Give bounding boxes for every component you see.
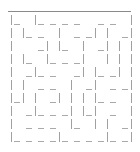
maze-wall-left: [107, 41, 108, 51]
maze-cell: [47, 65, 59, 78]
maze-cell: [83, 13, 95, 26]
maze-wall-bottom: [26, 76, 32, 77]
maze-wall-left: [35, 93, 36, 103]
maze-wall-bottom: [50, 76, 56, 77]
maze-cell: [71, 78, 83, 91]
maze-wall-bottom: [14, 102, 20, 103]
maze-cell: [35, 52, 47, 65]
maze-wall-left: [95, 80, 96, 90]
maze-wall-bottom: [110, 76, 116, 77]
maze-wall-left: [107, 28, 108, 38]
maze-wall-left: [83, 67, 84, 77]
maze-wall-bottom: [50, 24, 56, 25]
maze-wall-bottom: [74, 128, 80, 129]
maze-wall-bottom: [122, 128, 128, 129]
maze-wall-left: [11, 54, 12, 64]
maze-cell: [59, 39, 71, 52]
maze-cell: [35, 39, 47, 52]
maze-cell: [47, 91, 59, 104]
maze-wall-left: [11, 119, 12, 129]
maze-wall-bottom: [98, 24, 104, 25]
maze-cell: [95, 91, 107, 104]
maze-wall-bottom: [62, 50, 68, 51]
maze-cell: [35, 26, 47, 39]
maze-cell: [83, 39, 95, 52]
maze-cell: [35, 65, 47, 78]
maze-wall-bottom: [110, 102, 116, 103]
maze-wall-bottom: [110, 141, 116, 142]
maze-wall-left: [107, 132, 108, 142]
maze-cell: [71, 13, 83, 26]
maze-cell: [95, 13, 107, 26]
maze-cell: [35, 104, 47, 117]
maze-wall-bottom: [50, 141, 56, 142]
maze-cell: [95, 52, 107, 65]
maze-wall-left: [83, 106, 84, 116]
maze-cell: [47, 52, 59, 65]
maze-wall-bottom: [62, 141, 68, 142]
maze-wall-bottom: [122, 37, 128, 38]
maze-cell: [83, 52, 95, 65]
maze-wall-left: [35, 67, 36, 77]
maze-cell: [11, 78, 23, 91]
maze-cell: [47, 104, 59, 117]
maze-cell: [107, 52, 119, 65]
maze-grid: [11, 13, 131, 143]
maze-wall-bottom: [98, 76, 104, 77]
maze-wall-left: [95, 119, 96, 129]
maze-wall-left: [11, 15, 12, 25]
maze-cell: [83, 91, 95, 104]
maze-wall-left: [83, 41, 84, 51]
maze-cell: [11, 130, 23, 143]
maze-cell: [11, 13, 23, 26]
maze-cell: [59, 104, 71, 117]
maze-cell: [119, 52, 131, 65]
maze-cell: [47, 26, 59, 39]
maze-wall-bottom: [98, 102, 104, 103]
maze-top-wall: [8, 11, 131, 12]
maze-cell: [11, 117, 23, 130]
maze-wall-bottom: [14, 141, 20, 142]
maze-board: [11, 11, 131, 143]
maze-wall-bottom: [38, 76, 44, 77]
maze-cell: [23, 78, 35, 91]
maze-wall-bottom: [86, 37, 92, 38]
maze-cell: [119, 91, 131, 104]
maze-cell: [59, 13, 71, 26]
maze-wall-left: [119, 67, 120, 77]
maze-cell: [47, 39, 59, 52]
maze-wall-bottom: [26, 141, 32, 142]
maze-wall-bottom: [38, 128, 44, 129]
maze-wall-bottom: [38, 141, 44, 142]
maze-wall-left: [83, 93, 84, 103]
maze-wall-bottom: [86, 115, 92, 116]
maze-wall-left: [83, 54, 84, 64]
maze-wall-right-segment: [131, 28, 132, 38]
maze-cell: [107, 26, 119, 39]
maze-cell: [107, 65, 119, 78]
maze-wall-left: [59, 41, 60, 51]
maze-wall-bottom: [74, 76, 80, 77]
maze-cell: [11, 104, 23, 117]
maze-wall-right-segment: [131, 132, 132, 142]
maze-wall-bottom: [74, 37, 80, 38]
maze-wall-left: [95, 93, 96, 103]
maze-cell: [107, 104, 119, 117]
maze-wall-left: [71, 93, 72, 103]
maze-wall-bottom: [50, 89, 56, 90]
maze-cell: [83, 104, 95, 117]
maze-wall-bottom: [110, 89, 116, 90]
maze-cell: [23, 65, 35, 78]
maze-cell: [59, 52, 71, 65]
maze-cell: [23, 26, 35, 39]
maze-cell: [23, 39, 35, 52]
maze-cell: [119, 130, 131, 143]
maze-cell: [71, 65, 83, 78]
maze-wall-left: [107, 54, 108, 64]
maze-wall-left: [11, 41, 12, 51]
maze-wall-bottom: [74, 63, 80, 64]
maze-wall-left: [11, 93, 12, 103]
maze-cell: [83, 26, 95, 39]
maze-wall-left: [23, 54, 24, 64]
maze-cell: [83, 117, 95, 130]
